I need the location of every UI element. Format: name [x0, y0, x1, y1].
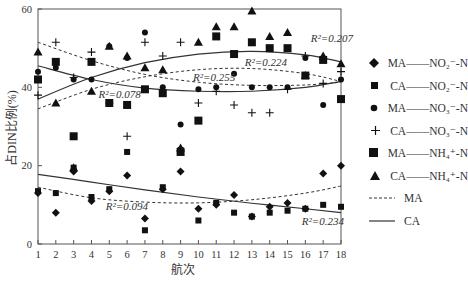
legend-label: CA——NO₃⁻-N — [390, 124, 468, 138]
triangle-marker — [212, 22, 221, 30]
square-marker — [123, 101, 131, 109]
legend-item-ca-no2: CA——NO₂⁻-N — [360, 75, 468, 98]
square-marker — [230, 50, 238, 58]
small-square-marker — [195, 218, 201, 224]
r2-annotations: R²=0.207R²=0.224R²=0.255R²=0.078R²=0.094… — [98, 32, 354, 227]
square-marker-icon — [360, 148, 388, 158]
x-tick-label: 15 — [282, 249, 293, 260]
x-tick-label: 11 — [211, 249, 221, 260]
r-squared-label: R²=0.207 — [310, 32, 354, 44]
dashed-line-icon — [360, 196, 404, 200]
legend-label: MA——NO₂⁻-N — [388, 56, 468, 70]
trendline-ca — [38, 174, 341, 212]
circle-marker — [267, 84, 273, 90]
small-square-marker — [53, 190, 59, 196]
triangle-marker — [247, 6, 256, 14]
legend: MA——NO₂⁻-N CA——NO₂⁻-N MA——NO₃⁻-N CA——NO₃… — [360, 52, 468, 232]
legend-item-ma-nh4: MA——NH₄⁺-N — [360, 142, 468, 165]
plus-marker — [230, 101, 238, 109]
x-tick-label: 7 — [142, 249, 147, 260]
x-tick-label: 17 — [318, 249, 329, 260]
small-square-marker — [338, 204, 344, 210]
small-square-marker — [249, 214, 255, 220]
trendlines — [38, 42, 341, 212]
legend-item-ca-nh4: CA——NH₄⁺-N — [360, 165, 468, 188]
legend-label: CA — [404, 215, 420, 227]
circle-marker — [249, 84, 255, 90]
x-tick-label: 14 — [264, 249, 275, 260]
plus-marker — [141, 38, 149, 46]
legend-label: MA——NO₃⁻-N — [388, 101, 468, 115]
plus-marker — [87, 48, 95, 56]
r-squared-label: R²=0.224 — [244, 56, 288, 68]
square-marker — [34, 76, 42, 84]
y-tick-label: 20 — [22, 160, 33, 171]
square-marker — [194, 117, 202, 125]
x-tick-label: 18 — [336, 249, 347, 260]
small-square-marker-icon — [360, 82, 390, 90]
x-tick-label: 4 — [89, 249, 95, 260]
square-marker — [87, 58, 95, 66]
circle-marker — [142, 30, 148, 36]
triangle-marker — [319, 52, 328, 60]
diamond-marker-icon — [360, 58, 388, 68]
small-square-marker — [285, 208, 291, 214]
triangle-marker — [34, 48, 43, 56]
square-marker — [70, 132, 78, 140]
plus-marker — [337, 68, 345, 76]
small-square-marker — [231, 210, 237, 216]
x-tick-label: 3 — [71, 249, 76, 260]
x-tick-label: 2 — [53, 249, 58, 260]
plot-frame — [38, 9, 341, 244]
plus-marker — [212, 87, 220, 95]
square-marker — [284, 44, 292, 52]
triangle-marker-icon — [360, 171, 390, 181]
diamond-marker — [177, 168, 185, 176]
y-tick-label: 60 — [22, 4, 33, 15]
y-tick-label: 0 — [27, 239, 32, 250]
triangle-marker — [158, 65, 167, 73]
triangle-marker — [69, 163, 78, 171]
triangle-marker — [194, 38, 203, 46]
square-marker — [266, 44, 274, 52]
triangle-marker — [140, 63, 149, 71]
x-tick-label: 9 — [178, 249, 183, 260]
diamond-marker — [284, 199, 292, 207]
diamond-marker — [52, 209, 60, 217]
diamond-marker — [194, 205, 202, 213]
trendline-ca — [38, 51, 341, 99]
small-square-marker — [213, 200, 219, 206]
small-square-marker — [160, 184, 166, 190]
small-square-marker — [35, 188, 41, 194]
diamond-marker — [230, 191, 238, 199]
triangle-marker — [265, 32, 274, 40]
square-marker — [212, 32, 220, 40]
square-marker — [52, 58, 60, 66]
square-marker — [159, 89, 167, 97]
legend-label: MA——NH₄⁺-N — [388, 146, 468, 160]
legend-item-ma-no3: MA——NO₃⁻-N — [360, 97, 468, 120]
legend-label: MA — [404, 192, 423, 204]
trendline-ca — [38, 66, 341, 92]
diamond-marker — [123, 171, 131, 179]
circle-marker — [320, 102, 326, 108]
plus-marker — [266, 109, 274, 117]
small-square-marker — [124, 149, 130, 155]
square-marker — [105, 99, 113, 107]
diamond-marker — [337, 162, 345, 170]
x-tick-label: 13 — [247, 249, 258, 260]
solid-line-icon — [360, 219, 404, 223]
circle-marker — [88, 77, 94, 83]
triangle-marker — [123, 52, 132, 60]
legend-label: CA——NO₂⁻-N — [390, 79, 468, 93]
small-square-marker — [106, 186, 112, 192]
plus-marker — [194, 99, 202, 107]
x-tick-label: 10 — [193, 249, 204, 260]
plus-marker — [248, 109, 256, 117]
legend-item-ca-no3: CA——NO₃⁻-N — [360, 120, 468, 143]
square-marker — [337, 95, 345, 103]
x-tick-label: 6 — [124, 249, 129, 260]
triangle-marker — [105, 42, 114, 50]
legend-label: CA——NH₄⁺-N — [390, 169, 468, 183]
small-square-marker — [320, 202, 326, 208]
